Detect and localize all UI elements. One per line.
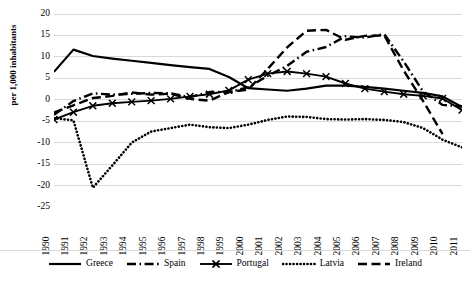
- x-tick-label: 1996: [158, 211, 168, 255]
- y-tick-label: 0: [22, 95, 50, 105]
- x-tick-label: 2001: [255, 211, 265, 255]
- x-tick-label: 1995: [138, 211, 148, 255]
- legend-item-greece[interactable]: Greece: [48, 258, 113, 270]
- series-latvia: [54, 117, 462, 188]
- x-tick-label: 2004: [313, 211, 323, 255]
- x-tick-label: 1990: [41, 211, 51, 255]
- legend-item-portugal[interactable]: Portugal: [199, 258, 269, 270]
- x-axis-tick-labels: 1990199119921993199419951996199719981999…: [54, 209, 462, 255]
- x-tick-label: 1991: [60, 211, 70, 255]
- legend-label: Portugal: [237, 259, 269, 269]
- x-tick-label: 1997: [177, 211, 187, 255]
- chart-container: per 1,000 inhabitants 20151050-5-10-15-2…: [0, 0, 470, 283]
- x-tick-label: 1998: [196, 211, 206, 255]
- legend-swatch-solid-icon: [48, 258, 82, 270]
- legend-item-latvia[interactable]: Latvia: [282, 258, 344, 270]
- x-tick-label: 1993: [99, 211, 109, 255]
- y-tick-label: 20: [22, 9, 50, 19]
- legend-swatch-solid-x-icon: [199, 258, 233, 270]
- y-tick-label: -5: [22, 116, 50, 126]
- legend-label: Spain: [164, 259, 186, 269]
- x-tick-label: 2000: [235, 211, 245, 255]
- x-tick-label: 2009: [410, 211, 420, 255]
- x-tick-label: 2011: [449, 211, 459, 255]
- legend-item-ireland[interactable]: Ireland: [357, 258, 422, 270]
- legend-item-spain[interactable]: Spain: [126, 258, 186, 270]
- legend-divider: [0, 250, 470, 251]
- x-tick-label: 2003: [294, 211, 304, 255]
- x-tick-label: 2005: [332, 211, 342, 255]
- y-tick-label: -15: [22, 159, 50, 169]
- x-tick-label: 2006: [352, 211, 362, 255]
- series-portugal: [54, 68, 462, 123]
- legend-swatch-dashed-icon: [357, 258, 391, 270]
- y-tick-label: 5: [22, 73, 50, 83]
- chart-legend: GreeceSpainPortugalLatviaIreland: [0, 256, 470, 272]
- y-tick-label: 10: [22, 52, 50, 62]
- legend-label: Latvia: [320, 259, 344, 269]
- y-tick-label: -10: [22, 138, 50, 148]
- legend-label: Greece: [86, 259, 113, 269]
- y-tick-label: -20: [22, 181, 50, 191]
- y-axis-title: per 1,000 inhabitants: [8, 0, 18, 130]
- plot-area: [54, 14, 462, 207]
- x-tick-label: 2007: [371, 211, 381, 255]
- x-tick-label: 2008: [391, 211, 401, 255]
- y-tick-label: -25: [22, 202, 50, 212]
- legend-swatch-dotted-icon: [282, 258, 316, 270]
- y-tick-label: 15: [22, 30, 50, 40]
- legend-swatch-dash-dot-icon: [126, 258, 160, 270]
- legend-label: Ireland: [395, 259, 422, 269]
- series-ireland: [54, 30, 443, 134]
- x-tick-label: 1992: [80, 211, 90, 255]
- x-tick-label: 1999: [216, 211, 226, 255]
- gridlines: [54, 14, 462, 207]
- chart-svg: [54, 14, 462, 207]
- x-tick-label: 2002: [274, 211, 284, 255]
- x-tick-label: 1994: [119, 211, 129, 255]
- x-tick-label: 2010: [430, 211, 440, 255]
